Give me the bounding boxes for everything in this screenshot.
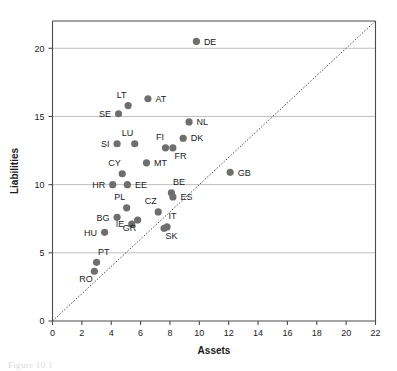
point-label-fr: FR [174,151,186,161]
axis-ticks: 024681012141618202205101520 [34,44,380,338]
identity-line [53,21,376,321]
point-label-de: DE [204,37,217,47]
point-label-es: ES [180,192,192,202]
data-point-de [193,38,200,45]
x-axis-title: Assets [198,345,231,356]
data-point-gb [227,169,234,176]
data-point-at [144,95,151,102]
x-tick-label-22: 22 [370,328,380,338]
x-tick-label-4: 4 [109,328,114,338]
x-tick-label-12: 12 [224,328,234,338]
data-point-pl [123,204,130,211]
data-point-cz [155,208,162,215]
chart-canvas: 024681012141618202205101520 DEATLTSENLDK… [0,0,397,371]
x-tick-label-18: 18 [312,328,322,338]
point-label-ro: RO [79,274,93,284]
y-tick-label-5: 5 [39,248,44,258]
data-point-nl [185,118,192,125]
data-point-hu [101,229,108,236]
x-tick-label-6: 6 [138,328,143,338]
point-label-se: SE [99,109,111,119]
x-tick-label-14: 14 [253,328,263,338]
point-label-cy: CY [108,158,121,168]
point-label-si: SI [101,139,110,149]
point-label-it: IT [169,211,178,221]
x-tick-label-2: 2 [79,328,84,338]
point-labels: DEATLTSENLDKLUSIFIFRMTGBCYHREEBEESPLCZBG… [79,37,250,285]
data-point-si [114,140,121,147]
y-tick-label-0: 0 [39,316,44,326]
figure-caption: Figure 10.1 [8,360,53,370]
point-label-nl: NL [197,117,209,127]
point-label-at: AT [155,94,166,104]
identity-reference-line [53,21,376,321]
data-point-hr [109,181,116,188]
data-point-es [169,193,176,200]
x-tick-label-8: 8 [167,328,172,338]
point-label-hr: HR [92,180,105,190]
y-axis-title: Liabilities [9,148,20,195]
data-point-lu [131,140,138,147]
point-label-gr: GR [123,223,137,233]
data-point-mt [143,159,150,166]
point-label-gb: GB [238,168,251,178]
data-point-se [115,110,122,117]
data-point-dk [180,135,187,142]
data-point-ee [124,181,131,188]
data-points [91,38,234,275]
data-point-fi [162,144,169,151]
y-tick-label-15: 15 [34,112,44,122]
x-tick-label-10: 10 [194,328,204,338]
point-label-dk: DK [191,133,204,143]
y-tick-label-20: 20 [34,44,44,54]
point-label-hu: HU [84,228,97,238]
y-tick-label-10: 10 [34,180,44,190]
data-point-pt [93,259,100,266]
point-label-ie: IE [116,219,125,229]
point-label-pl: PL [114,192,125,202]
point-label-bg: BG [97,213,110,223]
x-tick-label-0: 0 [50,328,55,338]
point-label-be: BE [173,177,185,187]
point-label-fi: FI [156,132,164,142]
x-tick-label-20: 20 [341,328,351,338]
point-label-lt: LT [117,90,127,100]
data-point-lt [125,102,132,109]
point-label-pt: PT [98,247,110,257]
data-point-cy [119,170,126,177]
scatter-plot-figure: 024681012141618202205101520 DEATLTSENLDK… [0,0,397,371]
point-label-mt: MT [154,158,167,168]
point-label-ee: EE [135,180,147,190]
point-label-cz: CZ [145,196,157,206]
point-label-sk: SK [166,231,178,241]
point-label-lu: LU [122,128,134,138]
x-tick-label-16: 16 [282,328,292,338]
